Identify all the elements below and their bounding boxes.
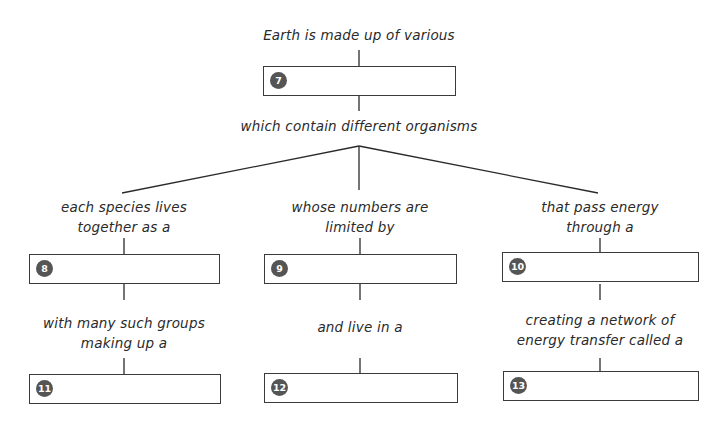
branch-3-label: that pass energy through a [500,197,700,237]
number-badge: 7 [270,72,287,89]
answer-input-11[interactable] [60,375,214,403]
branch-3-label-line1: that pass energy [500,197,700,217]
answer-box-11[interactable]: 11 [29,374,221,404]
answer-box-9[interactable]: 9 [264,254,457,284]
branch-3-sub-label-line1: creating a network of [500,310,700,330]
number-badge: 13 [510,377,527,394]
answer-input-9[interactable] [295,255,450,283]
branch-2-sub-label: and live in a [260,317,460,337]
branch-3-label-line2: through a [500,217,700,237]
answer-input-10[interactable] [533,253,692,281]
answer-input-12[interactable] [295,374,451,402]
answer-input-8[interactable] [60,255,213,283]
root-label: Earth is made up of various [259,25,459,45]
mid-label: which contain different organisms [214,116,504,136]
answer-box-7[interactable]: 7 [263,66,456,96]
answer-box-10[interactable]: 10 [502,252,699,282]
branch-2-label-line2: limited by [260,217,460,237]
answer-box-8[interactable]: 8 [29,254,220,284]
answer-box-12[interactable]: 12 [264,373,458,403]
concept-map: Earth is made up of various 7 which cont… [0,0,728,425]
branch-1-sub-label-line2: making up a [24,333,224,353]
number-badge: 11 [36,380,53,397]
number-badge: 10 [509,258,526,275]
branch-2-label-line1: whose numbers are [260,197,460,217]
branch-1-sub-label-line1: with many such groups [24,313,224,333]
branch-1-sub-label: with many such groups making up a [24,313,224,353]
branch-1-label: each species lives together as a [24,197,224,237]
answer-box-13[interactable]: 13 [503,371,699,401]
answer-input-7[interactable] [294,67,449,95]
branch-1-label-line1: each species lives [24,197,224,217]
number-badge: 9 [271,260,288,277]
number-badge: 12 [271,379,288,396]
answer-input-13[interactable] [534,372,692,400]
branch-2-label: whose numbers are limited by [260,197,460,237]
branch-1-label-line2: together as a [24,217,224,237]
branch-2-sub-label-line1: and live in a [260,317,460,337]
branch-3-sub-label-line2: energy transfer called a [500,330,700,350]
number-badge: 8 [36,260,53,277]
branch-3-sub-label: creating a network of energy transfer ca… [500,310,700,350]
